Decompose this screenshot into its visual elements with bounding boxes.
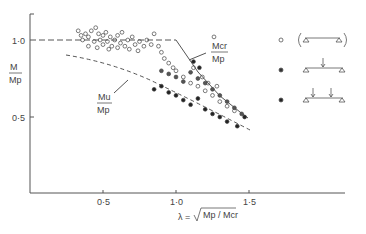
mcr-num: Mcr — [212, 41, 227, 51]
mu-den: Mp — [97, 105, 110, 115]
data-point — [116, 34, 120, 38]
data-point — [198, 66, 202, 70]
data-point — [181, 80, 185, 84]
y-tick-label-05: 0·5 — [12, 113, 25, 123]
data-point — [181, 75, 185, 79]
data-point — [104, 30, 108, 34]
x-label-lambda: λ = — [178, 212, 190, 222]
data-point — [174, 75, 178, 79]
data-point — [174, 69, 178, 73]
data-point — [189, 103, 193, 107]
data-point — [203, 107, 207, 111]
end-moment-right-icon — [344, 33, 347, 47]
data-point — [116, 46, 120, 50]
data-point — [243, 115, 247, 119]
data-point — [211, 112, 215, 116]
data-point — [196, 84, 200, 88]
data-point — [192, 60, 196, 64]
data-point — [133, 43, 137, 47]
data-point — [189, 70, 193, 74]
data-point — [127, 47, 131, 51]
legend-item-central-load — [279, 58, 345, 72]
end-moment-left-icon — [299, 33, 302, 47]
data-point — [235, 124, 239, 128]
data-point — [167, 72, 171, 76]
x-label-frac: Mp / Mcr — [203, 210, 238, 220]
data-point — [123, 44, 127, 48]
data-point — [211, 94, 215, 98]
data-point — [215, 84, 219, 88]
data-point — [225, 100, 229, 104]
data-point — [218, 100, 222, 104]
data-point — [225, 104, 229, 108]
legend-item-end-moments — [279, 33, 347, 47]
data-point — [196, 77, 200, 81]
y-label-den: Mp — [9, 75, 22, 85]
mu-leader — [114, 80, 128, 93]
legend-filled-circle-icon — [279, 98, 283, 102]
mcr-den: Mp — [212, 54, 225, 64]
x-tick-label-10: 1·0 — [170, 197, 183, 207]
data-point — [94, 26, 98, 30]
legend-half-filled-icon — [279, 68, 283, 72]
mu-curve-dashed — [66, 55, 250, 130]
data-point — [218, 115, 222, 119]
data-point — [142, 44, 146, 48]
data-point — [211, 87, 215, 91]
data-point — [162, 57, 166, 61]
legend — [279, 33, 347, 102]
y-tick-label-10: 1·0 — [12, 36, 25, 46]
data-point — [225, 120, 229, 124]
mu-num: Mu — [98, 92, 111, 102]
data-point — [233, 106, 237, 110]
legend-item-two-loads — [279, 88, 345, 102]
data-point — [149, 43, 153, 47]
series-filled-circles — [152, 60, 246, 128]
data-point — [84, 32, 88, 36]
data-point — [81, 38, 85, 42]
data-point — [189, 81, 193, 85]
data-point — [108, 35, 112, 39]
data-point — [120, 30, 124, 34]
beam-buckling-chart: 1·0 0·5 0·5 1·0 1·5 M Mp λ = Mp / Mcr Mc… — [0, 0, 366, 234]
y-label-num: M — [10, 62, 18, 72]
data-point — [218, 94, 222, 98]
support-left-icon — [303, 98, 309, 102]
data-point — [157, 44, 161, 48]
data-point — [110, 44, 114, 48]
data-point — [167, 91, 171, 95]
support-right-icon — [339, 68, 345, 72]
data-point — [119, 41, 123, 45]
mu-annotation: Mu Mp — [97, 92, 112, 115]
data-point — [101, 43, 105, 47]
data-point — [160, 50, 164, 54]
data-point — [171, 66, 175, 70]
data-point — [174, 94, 178, 98]
data-point — [89, 29, 93, 33]
legend-open-circle-icon — [279, 38, 283, 42]
mcr-leader — [189, 53, 206, 60]
mcr-annotation: Mcr Mp — [211, 41, 228, 64]
data-point — [97, 32, 101, 36]
data-point — [196, 97, 200, 101]
data-point — [107, 47, 111, 51]
x-tick-label-05: 0·5 — [97, 197, 110, 207]
x-axis-label: λ = Mp / Mcr — [178, 208, 238, 222]
data-point — [203, 89, 207, 93]
data-point — [203, 81, 207, 85]
support-left-icon — [303, 38, 309, 42]
data-point — [160, 84, 164, 88]
data-point — [101, 34, 105, 38]
data-point — [181, 98, 185, 102]
data-point — [87, 44, 91, 48]
data-point — [160, 69, 164, 73]
data-point — [240, 112, 244, 116]
data-point — [76, 29, 80, 33]
data-point — [167, 61, 171, 65]
data-point — [130, 35, 134, 39]
data-point — [136, 49, 140, 53]
y-axis-label: M Mp — [9, 62, 22, 85]
support-right-icon — [336, 38, 342, 42]
support-left-icon — [303, 68, 309, 72]
data-point — [152, 87, 156, 91]
